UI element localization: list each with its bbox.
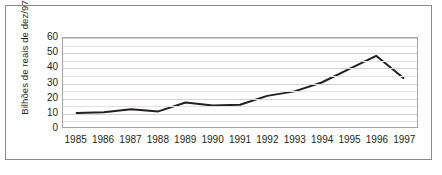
gridline <box>63 68 417 69</box>
y-tick-label: 60 <box>47 32 58 42</box>
plot-area <box>62 37 418 128</box>
gridline <box>63 46 417 47</box>
x-axis-tick-labels: 1985198619871988198919901991199219931994… <box>62 133 418 149</box>
y-axis-title: Bilhões de reais de dez/97 <box>19 0 30 118</box>
gridline <box>63 76 417 77</box>
gridline <box>63 91 417 92</box>
chart-figure: Bilhões de reais de dez/97 0102030405060… <box>0 0 442 175</box>
gridline <box>63 84 417 85</box>
gridline <box>63 53 417 54</box>
gridline <box>63 106 417 107</box>
y-tick-label: 0 <box>52 123 58 133</box>
y-tick-label: 10 <box>47 108 58 118</box>
x-tick-label: 1997 <box>384 133 424 147</box>
gridline <box>63 38 417 39</box>
y-tick-label: 30 <box>47 78 58 88</box>
gridline <box>63 121 417 122</box>
y-axis-tick-labels: 0102030405060 <box>34 32 58 128</box>
y-tick-label: 40 <box>47 62 58 72</box>
gridline <box>63 114 417 115</box>
gridline <box>63 61 417 62</box>
gridline <box>63 99 417 100</box>
y-tick-label: 50 <box>47 47 58 57</box>
y-tick-label: 20 <box>47 93 58 103</box>
